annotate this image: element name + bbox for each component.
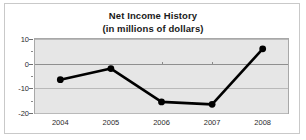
y-tick-label: -10 — [18, 84, 29, 93]
x-tick-label: 2006 — [153, 118, 170, 127]
data-series-line — [35, 39, 288, 113]
x-tick-label: 2007 — [204, 118, 221, 127]
plot-area — [34, 38, 289, 114]
y-tick-mark — [29, 64, 33, 65]
series-line — [60, 49, 262, 105]
page-title: Net Income History — [5, 9, 301, 22]
y-axis: 100-10-20 — [5, 38, 32, 114]
x-axis: 20042005200620072008 — [34, 118, 289, 132]
x-tick-label: 2004 — [52, 118, 69, 127]
data-point-marker — [57, 76, 64, 83]
data-point-marker — [108, 65, 115, 72]
x-tick-label: 2008 — [254, 118, 271, 127]
chart-figure: Net Income History (in millions of dolla… — [4, 3, 300, 134]
y-tick-mark-minor — [31, 51, 33, 52]
chart-subtitle: (in millions of dollars) — [5, 22, 301, 35]
y-tick-mark — [29, 88, 33, 89]
x-tick-label: 2005 — [103, 118, 120, 127]
chart-title-block: Net Income History (in millions of dolla… — [5, 9, 301, 35]
y-tick-mark-minor — [31, 101, 33, 102]
y-tick-label: 10 — [21, 35, 29, 44]
data-point-marker — [259, 45, 266, 52]
y-tick-label: -20 — [18, 109, 29, 118]
y-tick-mark — [29, 113, 33, 114]
data-point-marker — [209, 101, 216, 108]
data-point-marker — [158, 99, 165, 106]
y-tick-mark — [29, 39, 33, 40]
y-tick-mark-minor — [31, 76, 33, 77]
gridline — [35, 113, 288, 114]
